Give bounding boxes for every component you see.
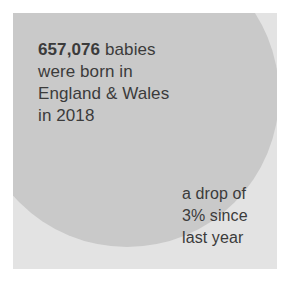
secondary-statement: a drop of 3% since last year [182, 183, 277, 249]
primary-statement-line-4: in 2018 [38, 105, 253, 127]
primary-statement-line-1-rest: babies [100, 40, 156, 59]
secondary-statement-line-1: a drop of [182, 183, 277, 205]
primary-statement-line-2: were born in [38, 61, 253, 83]
primary-statement-line-1: 657,076 babies [38, 39, 253, 61]
secondary-statement-line-3: last year [182, 227, 277, 249]
primary-statement: 657,076 babies were born in England & Wa… [38, 39, 253, 127]
stat-card: 657,076 babies were born in England & Wa… [13, 13, 277, 269]
infographic-root: 657,076 babies were born in England & Wa… [0, 0, 302, 288]
secondary-statement-line-2: 3% since [182, 205, 277, 227]
primary-statement-line-3: England & Wales [38, 83, 253, 105]
headline-figure: 657,076 [38, 40, 100, 59]
